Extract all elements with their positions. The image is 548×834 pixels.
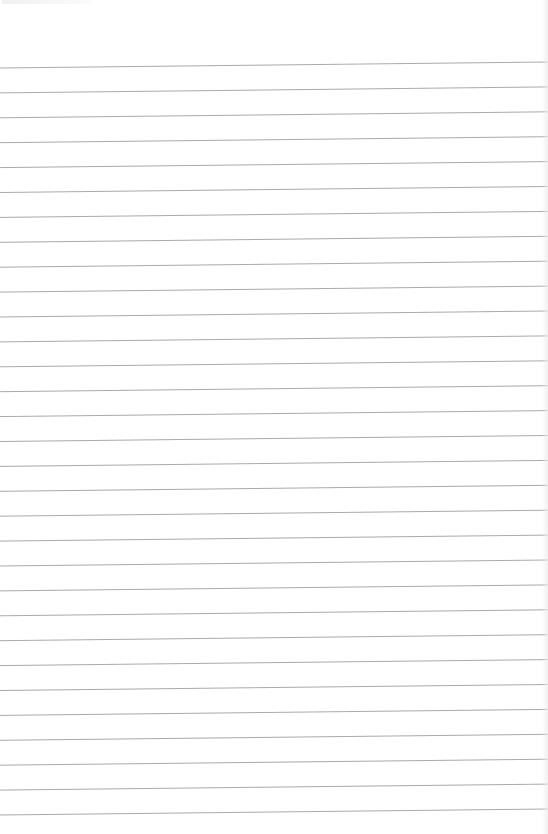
ruled-line [0,112,548,118]
ruled-line [0,87,548,93]
ruled-line [0,436,548,442]
ruled-line [0,187,548,193]
ruled-line [0,162,548,168]
ruled-line [0,411,548,417]
ruled-line [0,610,548,616]
ruled-line [0,535,548,541]
ruled-line [0,361,548,367]
ruled-line [0,734,548,740]
ruled-line [0,211,548,217]
ruled-line [0,386,548,392]
ruled-line [0,137,548,143]
ruled-line [0,261,548,267]
ruled-line [0,286,548,292]
ruled-line [0,510,548,516]
ruled-line [0,560,548,566]
ruled-line [0,62,548,68]
ruled-line [0,485,548,491]
ruled-line [0,635,548,641]
ruled-line [0,809,548,815]
ruled-line [0,460,548,466]
ruled-line [0,759,548,765]
ruled-line [0,311,548,317]
ruled-line [0,685,548,691]
ruled-line [0,660,548,666]
ruled-line [0,585,548,591]
ruled-line [0,784,548,790]
ruled-line [0,236,548,242]
ruled-lines [0,0,548,834]
page-edge-shadow [542,0,548,834]
lined-paper-page [0,0,548,834]
ruled-line [0,336,548,342]
ruled-line [0,709,548,715]
